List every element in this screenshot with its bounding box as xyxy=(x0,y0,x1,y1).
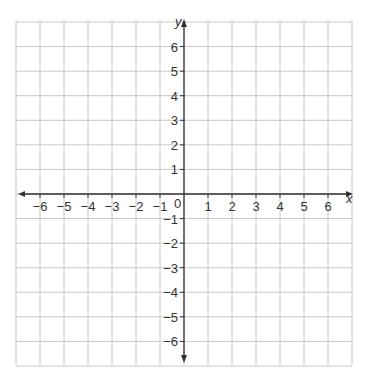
x-axis-label: x xyxy=(345,191,353,206)
x-tick-label: −4 xyxy=(81,199,96,214)
x-tick-label: 3 xyxy=(252,199,259,214)
y-tick-label: 4 xyxy=(171,89,178,104)
y-tick-label: −6 xyxy=(163,334,178,349)
y-tick-label: −4 xyxy=(163,285,178,300)
y-tick-label: 1 xyxy=(171,162,178,177)
x-tick-label: −3 xyxy=(105,199,120,214)
x-tick-label: 5 xyxy=(300,199,307,214)
x-tick-label: −5 xyxy=(57,199,72,214)
x-tick-label: 2 xyxy=(228,199,235,214)
x-tick-label: 4 xyxy=(276,199,283,214)
y-tick-label: 2 xyxy=(171,138,178,153)
x-tick-label: −6 xyxy=(33,199,48,214)
y-tick-label: 3 xyxy=(171,113,178,128)
y-tick-label: −1 xyxy=(163,212,178,227)
y-tick-label: −2 xyxy=(163,236,178,251)
x-tick-label: −2 xyxy=(129,199,144,214)
coordinate-plane: −6−5−4−3−2−1123456−6−5−4−3−2−1123456 x y… xyxy=(0,0,368,381)
x-tick-label: 6 xyxy=(324,199,331,214)
y-tick-label: −5 xyxy=(163,310,178,325)
x-tick-label: 1 xyxy=(204,199,211,214)
origin-label: 0 xyxy=(174,196,181,211)
y-tick-label: 5 xyxy=(171,64,178,79)
y-tick-label: −3 xyxy=(163,261,178,276)
y-tick-label: 6 xyxy=(171,40,178,55)
axes xyxy=(18,19,353,363)
